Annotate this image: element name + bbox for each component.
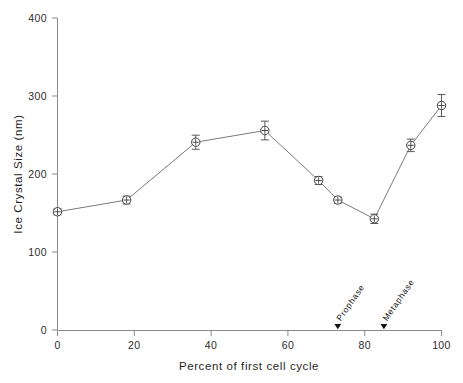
data-point[interactable] bbox=[334, 196, 342, 204]
x-axis-title: Percent of first cell cycle bbox=[179, 360, 319, 372]
annotation-label: Metaphase bbox=[380, 277, 416, 322]
data-point[interactable] bbox=[192, 135, 200, 149]
annotation-1: Metaphase bbox=[380, 277, 416, 329]
y-tick-label-0: 0 bbox=[41, 324, 47, 336]
data-point[interactable] bbox=[261, 121, 269, 140]
x-tick-label-20: 20 bbox=[128, 339, 140, 351]
data-series-layer bbox=[53, 95, 445, 224]
y-axis: 400 300 200 100 0 Ice Crystal Size (nm) bbox=[12, 12, 58, 336]
annotation-layer: ProphaseMetaphase bbox=[334, 277, 416, 329]
y-tick-label-200: 200 bbox=[28, 168, 47, 180]
y-tick-label-300: 300 bbox=[28, 90, 47, 102]
down-triangle-icon bbox=[381, 324, 388, 329]
y-axis-title: Ice Crystal Size (nm) bbox=[12, 114, 24, 233]
x-tick-label-60: 60 bbox=[282, 339, 294, 351]
data-point[interactable] bbox=[122, 196, 130, 204]
down-triangle-icon bbox=[334, 324, 341, 329]
series-line bbox=[58, 106, 442, 219]
x-tick-label-80: 80 bbox=[358, 339, 370, 351]
data-point[interactable] bbox=[370, 214, 378, 223]
x-tick-label-0: 0 bbox=[54, 339, 60, 351]
x-tick-label-40: 40 bbox=[205, 339, 217, 351]
annotation-label: Prophase bbox=[334, 283, 366, 323]
data-point[interactable] bbox=[53, 208, 61, 216]
data-point[interactable] bbox=[437, 95, 445, 117]
series-0 bbox=[53, 95, 445, 224]
data-point[interactable] bbox=[314, 176, 322, 184]
x-axis: 0 20 40 60 80 100 Percent of first cell … bbox=[54, 331, 450, 373]
chart-figure: 400 300 200 100 0 Ice Crystal Size (nm) … bbox=[0, 0, 463, 383]
y-tick-label-100: 100 bbox=[28, 246, 47, 258]
x-tick-label-100: 100 bbox=[432, 339, 451, 351]
annotation-0: Prophase bbox=[334, 283, 366, 330]
line-chart: 400 300 200 100 0 Ice Crystal Size (nm) … bbox=[0, 0, 463, 383]
y-tick-label-400: 400 bbox=[28, 12, 47, 24]
